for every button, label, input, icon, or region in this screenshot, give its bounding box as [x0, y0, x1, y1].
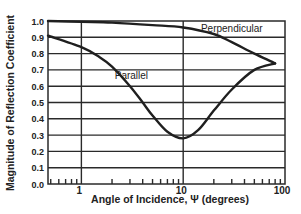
- curve-label: Parallel: [115, 70, 148, 81]
- y-tick-label: 0.0: [31, 180, 44, 190]
- y-tick-labels: 0.00.10.20.30.40.50.60.70.80.91.0: [31, 17, 44, 190]
- y-tick-label: 0.5: [31, 98, 44, 108]
- y-tick-label: 0.4: [31, 114, 44, 124]
- y-tick-label: 1.0: [31, 17, 44, 27]
- curve-label: Perpendicular: [201, 23, 263, 34]
- x-axis-title: Angle of Incidence, Ψ (degrees): [91, 193, 249, 205]
- y-tick-label: 0.8: [31, 49, 44, 59]
- y-axis-title: Magnitude of Reflection Coefficient: [4, 14, 16, 191]
- y-tick-label: 0.9: [31, 33, 44, 43]
- y-tick-label: 0.1: [31, 163, 44, 173]
- y-tick-label: 0.3: [31, 131, 44, 141]
- y-tick-label: 0.2: [31, 147, 44, 157]
- x-tick-label: 1: [77, 185, 83, 196]
- reflection-coefficient-chart: 0.00.10.20.30.40.50.60.70.80.91.0 110100…: [0, 0, 301, 214]
- y-tick-label: 0.7: [31, 65, 44, 75]
- y-tick-label: 0.6: [31, 82, 44, 92]
- gridlines: [48, 21, 285, 184]
- x-tick-label: 100: [274, 185, 291, 196]
- curve-annotations: PerpendicularParallel: [115, 23, 264, 81]
